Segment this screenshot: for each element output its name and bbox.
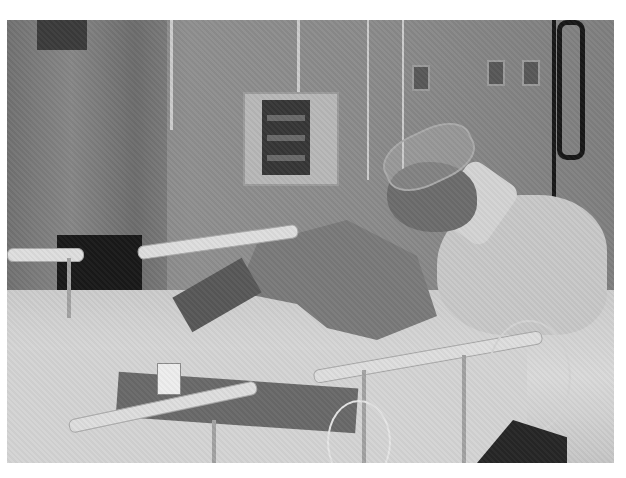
grain-overlay: [7, 20, 614, 463]
icu-photo: [7, 20, 614, 463]
